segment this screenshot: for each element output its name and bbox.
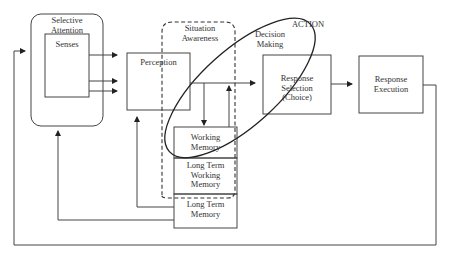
decision-making-line2: Making [245, 40, 295, 50]
ltwm-line3: Memory [174, 180, 237, 190]
working-memory-line2: Memory [174, 143, 237, 153]
selective-attention-line2: Attention [34, 26, 100, 36]
situation-awareness-line2: Awareness [170, 34, 230, 44]
ltm-line2: Memory [174, 210, 237, 220]
action-label: ACTION [283, 20, 333, 30]
perception-label: Perception [127, 58, 190, 68]
working-memory-label: Working Memory [174, 133, 237, 152]
senses-label: Senses [45, 40, 89, 50]
situation-awareness-label: Situation Awareness [170, 24, 230, 43]
response-execution-label: Response Execution [359, 75, 423, 94]
decision-making-label: Decision Making [245, 30, 295, 49]
long-term-memory-label: Long Term Memory [174, 200, 237, 219]
response-selection-label: Response Selection (Choice) [263, 74, 331, 103]
long-term-working-memory-label: Long Term Working Memory [174, 161, 237, 190]
response-execution-line2: Execution [359, 85, 423, 95]
response-selection-line3: (Choice) [263, 93, 331, 103]
selective-attention-label: Selective Attention [34, 16, 100, 35]
